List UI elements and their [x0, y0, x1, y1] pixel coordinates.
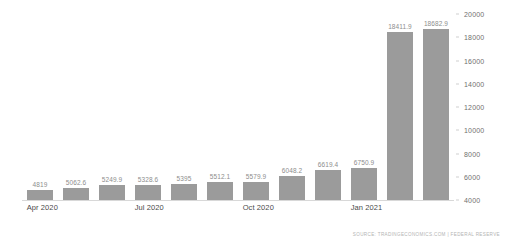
bar-value-label: 5512.1 [210, 173, 230, 181]
bar-6[interactable]: 5512.1 [207, 14, 234, 200]
bar-value-label: 6619.4 [318, 161, 338, 169]
bar-9[interactable]: 6619.4 [315, 14, 342, 200]
bar-7[interactable]: 5579.9 [243, 14, 270, 200]
y-tick-mark [456, 176, 459, 177]
y-tick-mark [456, 107, 459, 108]
y-tick-mark [456, 37, 459, 38]
y-tick-mark [456, 153, 459, 154]
bar-value-label: 4819 [33, 181, 48, 189]
bar-value-label: 5579.9 [246, 173, 266, 181]
bar-value-label: 18682.9 [424, 20, 448, 28]
bar-rect[interactable] [423, 29, 450, 200]
y-tick-label: 16000 [464, 57, 484, 64]
y-tick-mark [456, 14, 459, 15]
plot-area: 48195062.65249.95328.653955512.15579.960… [22, 14, 454, 200]
bar-value-label: 18411.9 [388, 23, 412, 31]
bar-rect[interactable] [63, 188, 90, 200]
y-tick-mark [456, 130, 459, 131]
bar-value-label: 5395 [177, 175, 192, 183]
bar-8[interactable]: 6048.2 [279, 14, 306, 200]
y-tick-label: 12000 [464, 104, 484, 111]
chart-container: 48195062.65249.95328.653955512.15579.960… [0, 0, 512, 246]
bar-rect[interactable] [27, 190, 54, 200]
bar-rect[interactable] [135, 185, 162, 200]
bar-1[interactable]: 4819 [27, 14, 54, 200]
bar-series: 48195062.65249.95328.653955512.15579.960… [22, 14, 454, 200]
bar-value-label: 5328.6 [138, 176, 158, 184]
x-tick-label: Apr 2020 [27, 203, 58, 213]
bar-5[interactable]: 5395 [171, 14, 198, 200]
bar-value-label: 5249.9 [102, 176, 122, 184]
x-tick-label: Jul 2020 [135, 203, 164, 213]
bar-rect[interactable] [99, 185, 126, 200]
bar-3[interactable]: 5249.9 [99, 14, 126, 200]
bar-value-label: 6750.9 [354, 159, 374, 167]
y-tick-label: 8000 [464, 150, 480, 157]
bar-rect[interactable] [387, 32, 414, 200]
y-tick-label: 18000 [464, 34, 484, 41]
bar-rect[interactable] [207, 182, 234, 200]
y-tick-label: 10000 [464, 127, 484, 134]
bar-rect[interactable] [279, 176, 306, 200]
x-tick-label: Oct 2020 [243, 203, 274, 213]
x-axis: Apr 2020Jul 2020Oct 2020Jan 2021 [22, 203, 454, 217]
y-tick-mark [456, 83, 459, 84]
y-tick-label: 14000 [464, 80, 484, 87]
x-axis-baseline [22, 200, 454, 201]
y-tick-mark [456, 60, 459, 61]
bar-value-label: 6048.2 [282, 167, 302, 175]
bar-11[interactable]: 18411.9 [387, 14, 414, 200]
y-tick-label: 6000 [464, 173, 480, 180]
bar-value-label: 5062.6 [66, 179, 86, 187]
bar-rect[interactable] [315, 170, 342, 200]
y-tick-label: 20000 [464, 11, 484, 18]
y-axis: 4000600080001000012000140001600018000200… [456, 14, 512, 200]
bar-12[interactable]: 18682.9 [423, 14, 450, 200]
bar-2[interactable]: 5062.6 [63, 14, 90, 200]
y-tick-label: 4000 [464, 197, 480, 204]
bar-rect[interactable] [171, 184, 198, 200]
bar-rect[interactable] [243, 182, 270, 200]
x-tick-label: Jan 2021 [351, 203, 383, 213]
source-attribution: SOURCE: TRADINGECONOMICS.COM | FEDERAL R… [353, 232, 500, 238]
bar-rect[interactable] [351, 168, 378, 200]
y-tick-mark [456, 200, 459, 201]
bar-4[interactable]: 5328.6 [135, 14, 162, 200]
bar-10[interactable]: 6750.9 [351, 14, 378, 200]
